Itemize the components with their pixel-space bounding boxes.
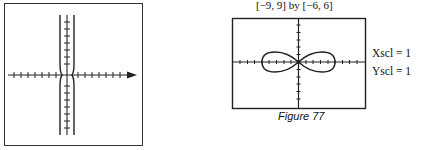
xscl-label: Xscl = 1	[372, 47, 411, 59]
window-label: [−9, 9] by [−6, 6]	[256, 0, 333, 11]
left-graph	[0, 0, 422, 150]
yscl-label: Yscl = 1	[372, 65, 411, 77]
figure-caption: Figure 77	[278, 110, 324, 122]
